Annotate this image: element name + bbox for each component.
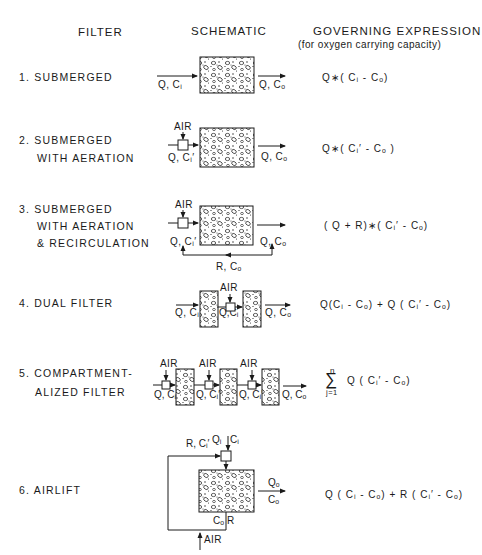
row5-filter-bed-2 (220, 369, 237, 405)
row5-aerator-box-1 (162, 381, 170, 389)
row5-filter-bed-1 (176, 369, 194, 405)
row5-aerator-box-2 (205, 381, 213, 389)
schematic-drawings (0, 0, 482, 555)
row5-filter-bed-3 (262, 369, 279, 405)
row1-filter-bed (200, 57, 254, 93)
row5-aerator-box-3 (248, 381, 256, 389)
row4-aerator-box (226, 303, 235, 311)
row6-filter-bed (199, 470, 254, 512)
row3-filter-bed (200, 206, 253, 245)
row4-filter-bed-1 (200, 291, 218, 327)
row4-filter-bed-2 (243, 291, 261, 327)
row2-filter-bed (200, 128, 254, 167)
row6-mixing-box (221, 451, 231, 461)
row2-aerator-box (178, 140, 188, 150)
row3-aerator-box (178, 218, 188, 228)
